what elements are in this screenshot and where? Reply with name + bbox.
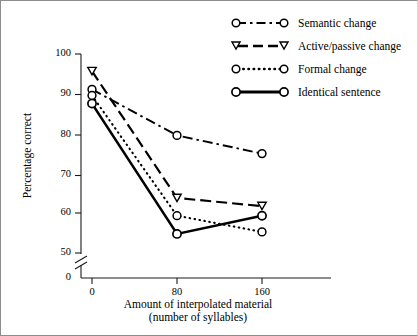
x-axis (81, 278, 331, 284)
data-point-activepassive-160 (258, 202, 266, 209)
y-tick-label-80: 80 (41, 128, 71, 139)
x-axis-title: Amount of interpolated material (number … (73, 298, 323, 324)
y-axis (75, 54, 87, 278)
data-point-formal-0 (88, 92, 96, 100)
y-axis-title: Percentage correct (21, 86, 34, 226)
axis-break-mark-1 (75, 256, 87, 263)
data-point-identical-80 (173, 230, 181, 238)
legend-key-semantic-change (229, 13, 291, 33)
y-tick-label-90: 90 (41, 87, 71, 98)
legend-item-active-passive-change: Active/passive change (229, 34, 409, 57)
data-point-formal-160 (258, 228, 266, 236)
data-point-identical-0 (88, 100, 96, 108)
y-tick-label-0: 0 (41, 271, 71, 282)
series-formal-change (88, 92, 266, 236)
x-axis-title-line1: Amount of interpolated material (73, 298, 323, 311)
legend-key-formal-change (229, 59, 291, 79)
y-tick-label-100: 100 (41, 47, 71, 58)
legend: Semantic change Active/passive change Fo… (229, 11, 409, 103)
legend-item-identical-sentence: Identical sentence (229, 80, 409, 103)
y-tick-label-60: 60 (41, 206, 71, 217)
data-point-activepassive-80 (173, 194, 181, 201)
y-tick-label-50: 50 (41, 246, 71, 257)
data-point-semantic-80 (173, 132, 181, 140)
y-tick-label-70: 70 (41, 168, 71, 179)
legend-label-active-passive-change: Active/passive change (298, 40, 401, 52)
legend-item-semantic-change: Semantic change (229, 11, 409, 34)
legend-label-semantic-change: Semantic change (298, 17, 376, 29)
legend-label-identical-sentence: Identical sentence (298, 86, 381, 98)
x-tick-label-160: 160 (247, 286, 277, 297)
x-tick-label-0: 0 (77, 286, 107, 297)
x-tick-label-80: 80 (162, 286, 192, 297)
data-point-formal-80 (173, 212, 181, 220)
legend-key-identical-sentence (229, 82, 291, 102)
figure-panel: 100 90 80 70 60 50 0 0 80 160 Percentage… (0, 0, 418, 336)
x-axis-title-line2: (number of syllables) (73, 311, 323, 324)
data-point-identical-160 (258, 212, 266, 220)
legend-label-formal-change: Formal change (298, 63, 367, 75)
legend-item-formal-change: Formal change (229, 57, 409, 80)
data-point-semantic-160 (258, 150, 266, 158)
legend-key-active-passive-change (229, 36, 291, 56)
